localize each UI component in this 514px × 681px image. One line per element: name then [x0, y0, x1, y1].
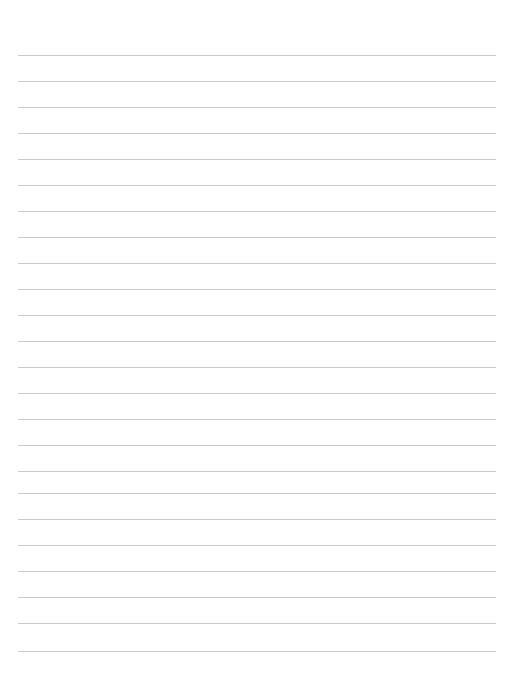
- handwriting-content-layer[interactable]: [0, 0, 514, 681]
- lined-paper-page: [0, 0, 514, 681]
